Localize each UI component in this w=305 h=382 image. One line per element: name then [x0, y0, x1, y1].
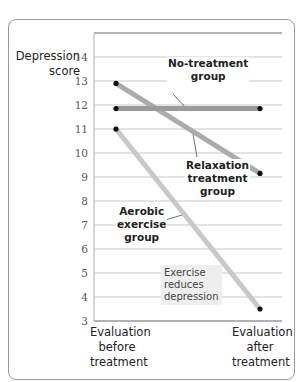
- note-text: reduces: [164, 279, 219, 291]
- label-text: exercise: [117, 218, 166, 231]
- label-text: treatment: [186, 172, 249, 185]
- data-point: [113, 106, 118, 111]
- label-text: group: [117, 231, 166, 244]
- data-point: [257, 106, 262, 111]
- label-text: group: [186, 185, 249, 198]
- note-exercise-reduces-depression: Exercise reduces depression: [161, 265, 222, 305]
- x-label-text: after: [232, 340, 288, 355]
- x-label-text: treatment: [232, 355, 288, 370]
- label-text: No-treatment: [168, 57, 248, 70]
- note-text: depression: [164, 291, 219, 303]
- x-label-text: Evaluation: [90, 325, 144, 340]
- x-label-text: Evaluation: [232, 325, 288, 340]
- label-no-treatment: No-treatment group: [167, 57, 249, 83]
- note-text: Exercise: [164, 267, 219, 279]
- label-text: group: [168, 70, 248, 83]
- data-point: [113, 126, 118, 131]
- data-point: [257, 306, 262, 311]
- x-label-text: treatment: [90, 355, 144, 370]
- label-aerobic: Aerobic exercise group: [116, 205, 167, 244]
- label-text: Aerobic: [117, 205, 166, 218]
- label-relaxation: Relaxation treatment group: [185, 159, 250, 198]
- x-label-text: before: [90, 340, 144, 355]
- label-text: Relaxation: [186, 159, 249, 172]
- data-point: [113, 81, 118, 86]
- x-label-before: Evaluation before treatment: [90, 325, 144, 370]
- x-label-after: Evaluation after treatment: [232, 325, 288, 370]
- data-point: [257, 171, 262, 176]
